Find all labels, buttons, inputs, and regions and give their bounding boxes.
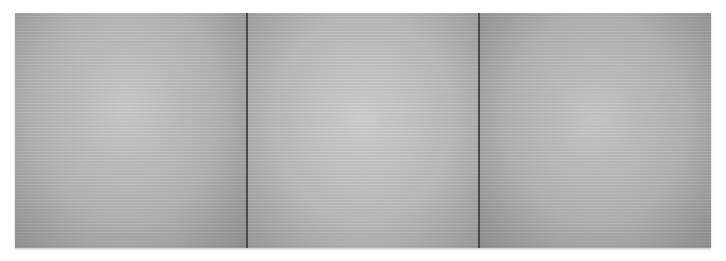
right-gray-panel <box>478 13 711 248</box>
left-gray-panel <box>15 13 246 248</box>
center-gray-panel <box>246 13 479 248</box>
gray-triptych-artwork <box>15 13 711 248</box>
